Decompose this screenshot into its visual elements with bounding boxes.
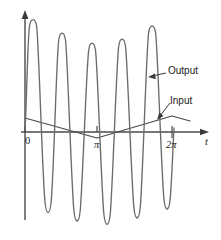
waveform-figure: 0 π 2π t Output Input <box>0 0 221 240</box>
plot-canvas <box>0 0 221 240</box>
input-callout-label: Input <box>170 96 192 106</box>
tick-label-pi: π <box>94 140 99 151</box>
input-leader-line <box>160 103 170 116</box>
tick-label-two-pi: 2π <box>166 140 177 151</box>
output-callout-label: Output <box>168 66 198 76</box>
y-axis <box>22 10 29 220</box>
input-curve <box>25 116 190 138</box>
tick-label-zero: 0 <box>25 136 30 147</box>
x-axis-arrowhead <box>200 129 209 136</box>
output-leader <box>148 73 166 79</box>
x-axis-label: t <box>205 137 208 148</box>
y-axis-arrowhead <box>22 10 29 19</box>
output-leader-arrowhead <box>148 74 156 80</box>
